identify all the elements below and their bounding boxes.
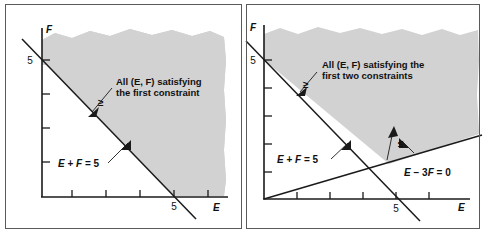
- right-inequality-symbol-lower: ≤: [398, 138, 404, 149]
- left-inequality-symbol: ≥: [98, 97, 104, 108]
- right-annotation-line1: All (E, F) satisfying the: [322, 59, 424, 70]
- left-shaded-region: [42, 20, 232, 196]
- right-f-tick-label-5: 5: [250, 55, 256, 66]
- right-annotation-line2: first two constraints: [322, 70, 413, 81]
- left-f-tick-label-5: 5: [27, 55, 33, 66]
- figure-svg: F E 5 5 All (E, F) satisfying the first …: [0, 0, 485, 238]
- right-f-axis-label: F: [250, 22, 257, 33]
- figure-container: F E 5 5 All (E, F) satisfying the first …: [0, 0, 485, 238]
- right-panel: [246, 5, 482, 229]
- left-region-fill-main: [42, 20, 226, 196]
- left-annotation-line1: All (E, F) satisfying: [116, 76, 202, 87]
- right-eq1-leader: [331, 143, 348, 159]
- left-f-axis-label: F: [46, 24, 53, 35]
- right-equation-e-plus-f: E + F = 5: [277, 154, 319, 165]
- right-inequality-symbol-upper: ≥: [303, 79, 309, 90]
- left-panel: [6, 5, 242, 229]
- left-e-tick-label-5: 5: [171, 201, 177, 212]
- left-equation-e-plus-f: E + F = 5: [58, 158, 100, 169]
- left-annotation-line2: the first constraint: [116, 87, 200, 98]
- right-e-axis-label: E: [458, 202, 465, 213]
- left-e-axis-label: E: [213, 202, 220, 213]
- right-e-tick-label-5: 5: [393, 203, 399, 214]
- right-equation-e-minus-3f: E − 3F = 0: [404, 167, 451, 178]
